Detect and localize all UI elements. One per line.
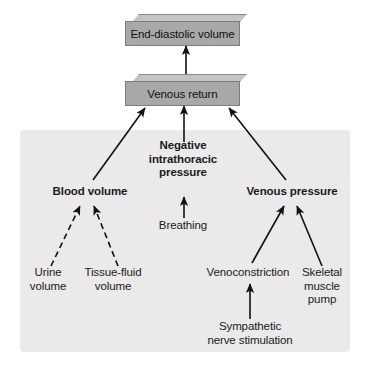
box-label-venous-return: Venous return <box>147 88 217 100</box>
box-front-face: End-diastolic volume <box>125 21 240 46</box>
diagram-vector-layer <box>0 0 367 368</box>
label-negative-intrathoracic-pressure: Negative intrathoracic pressure <box>123 139 243 180</box>
box-label-end-diastolic-volume: End-diastolic volume <box>130 28 234 40</box>
box-end-diastolic-volume: End-diastolic volume <box>125 14 247 46</box>
label-sympathetic-nerve-stimulation: Sympathetic nerve stimulation <box>180 320 320 347</box>
label-venous-pressure: Venous pressure <box>232 185 352 199</box>
box-front-face: Venous return <box>125 81 240 106</box>
label-breathing: Breathing <box>133 219 233 233</box>
box-venous-return: Venous return <box>125 74 247 106</box>
label-tissue-fluid-volume: Tissue-fluid volume <box>68 266 158 293</box>
label-skeletal-muscle-pump: Skeletal muscle pump <box>287 266 357 307</box>
label-blood-volume: Blood volume <box>0 185 180 199</box>
diagram-canvas: End-diastolic volume Venous return Blood… <box>0 0 367 368</box>
